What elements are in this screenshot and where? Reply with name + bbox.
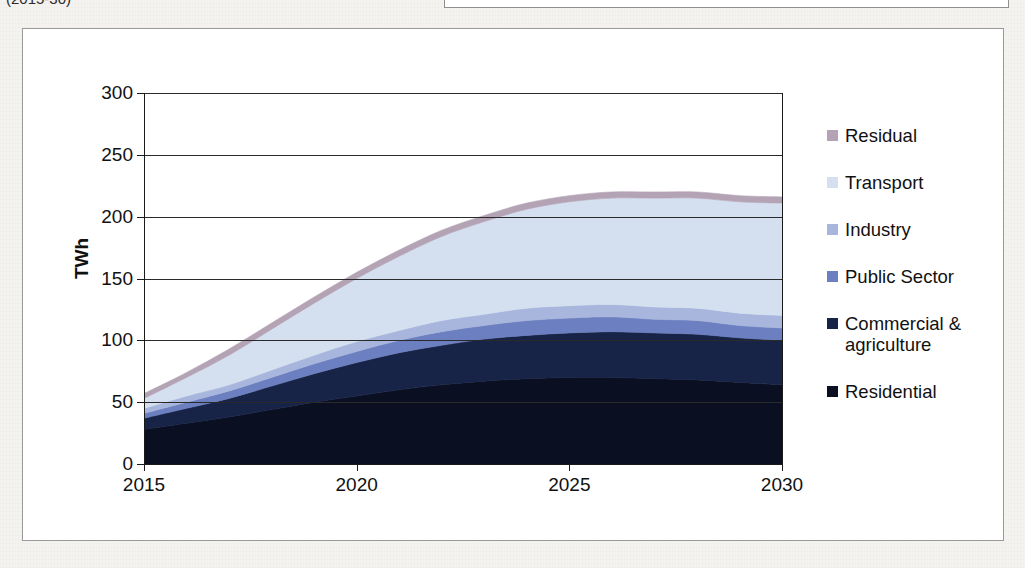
legend-item-label: Transport <box>845 172 923 193</box>
plot-area: 050100150200250300 2015202020252030 <box>144 93 782 464</box>
legend-item-label: Commercial & agriculture <box>845 313 997 355</box>
x-axis-tick <box>144 464 145 471</box>
legend-swatch-icon <box>827 224 838 235</box>
legend-item[interactable]: Residential <box>827 381 997 402</box>
chart-frame: TWh 050100150200250300 2015202020252030 … <box>22 28 1004 541</box>
x-axis-tick-label: 2020 <box>336 474 378 496</box>
gridline <box>144 340 782 341</box>
chart-plot-wrapper: TWh 050100150200250300 2015202020252030 … <box>23 29 1005 542</box>
x-axis-tick <box>782 464 783 471</box>
legend-swatch-icon <box>827 130 838 141</box>
y-axis-tick-label: 150 <box>101 268 133 290</box>
y-axis-tick <box>137 340 144 341</box>
y-axis-tick-label: 250 <box>101 144 133 166</box>
x-axis-tick-label: 2030 <box>761 474 803 496</box>
y-axis-tick-label: 300 <box>101 82 133 104</box>
legend-item-label: Industry <box>845 219 911 240</box>
y-axis-line <box>144 93 145 464</box>
legend-item[interactable]: Residual <box>827 125 997 146</box>
gridline <box>144 155 782 156</box>
y-axis-tick <box>137 464 144 465</box>
y-axis-tick <box>137 279 144 280</box>
y-axis-tick <box>137 155 144 156</box>
y-axis-tick-label: 100 <box>101 329 133 351</box>
legend-item[interactable]: Industry <box>827 219 997 240</box>
gridline <box>144 93 782 94</box>
gridline <box>144 402 782 403</box>
x-axis-tick <box>569 464 570 471</box>
y-axis-title: TWh <box>71 238 93 279</box>
x-axis-tick-label: 2025 <box>548 474 590 496</box>
plot-right-border <box>782 93 783 464</box>
y-axis-tick <box>137 402 144 403</box>
y-axis-tick-label: 50 <box>112 391 133 413</box>
legend-item-label: Public Sector <box>845 266 954 287</box>
legend-swatch-icon <box>827 386 838 397</box>
legend-item[interactable]: Public Sector <box>827 266 997 287</box>
y-axis-tick <box>137 217 144 218</box>
y-axis-tick-label: 200 <box>101 206 133 228</box>
legend-swatch-icon <box>827 177 838 188</box>
gridline <box>144 279 782 280</box>
legend-swatch-icon <box>827 271 838 282</box>
legend-swatch-icon <box>827 318 838 329</box>
x-axis-line <box>144 464 782 465</box>
legend-item-label: Residential <box>845 381 937 402</box>
legend-item[interactable]: Transport <box>827 172 997 193</box>
x-axis-tick <box>357 464 358 471</box>
legend-item-label: Residual <box>845 125 917 146</box>
legend-item[interactable]: Commercial & agriculture <box>827 313 997 355</box>
y-axis-tick-label: 0 <box>122 453 133 475</box>
clipped-box-above-chart <box>444 0 1009 8</box>
x-axis-tick-label: 2015 <box>123 474 165 496</box>
chart-legend: ResidualTransportIndustryPublic SectorCo… <box>827 125 997 429</box>
top-left-caption: (2015-30) <box>6 0 71 7</box>
gridline <box>144 217 782 218</box>
y-axis-tick <box>137 93 144 94</box>
